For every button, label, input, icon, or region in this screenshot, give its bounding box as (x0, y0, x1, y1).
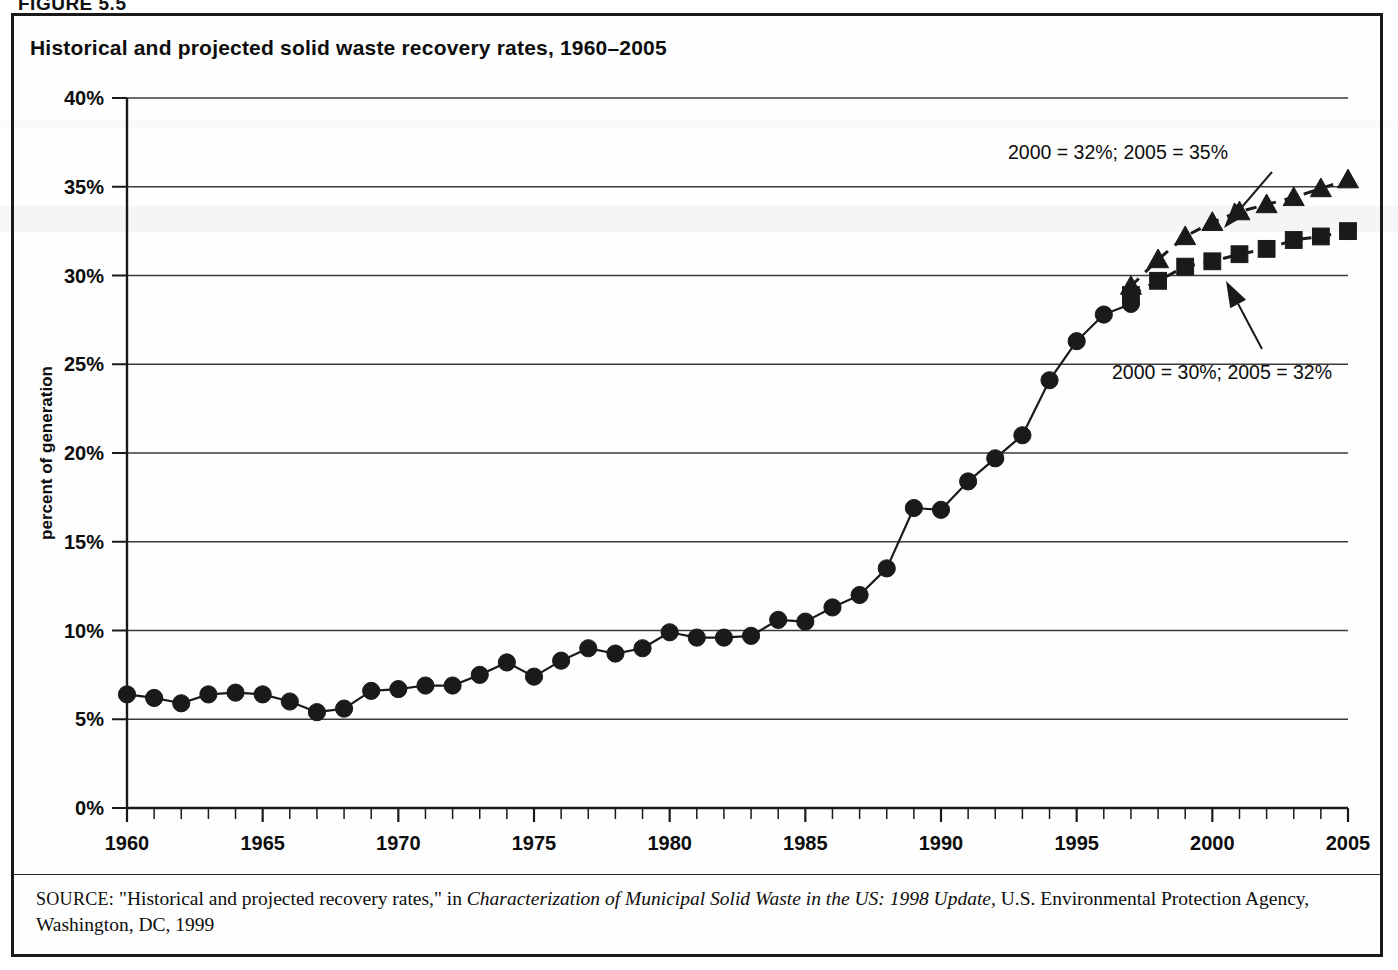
projection-low-label: 2000 = 30%; 2005 = 32% (1112, 361, 1332, 383)
source-note: SOURCE: "Historical and projected recove… (36, 886, 1346, 938)
data-point-circle-7 (308, 704, 325, 721)
data-point-circle-21 (688, 629, 705, 646)
data-point-circle-6 (281, 693, 298, 710)
data-series-group (118, 169, 1358, 721)
y-tick-label-30%: 30% (64, 265, 104, 287)
data-point-circle-1 (146, 689, 163, 706)
annotation-arrow-low-shaft (1238, 304, 1262, 349)
gridlines (127, 98, 1348, 719)
y-axis-title: percent of generation (37, 366, 56, 540)
source-italic-title: Characterization of Municipal Solid Wast… (467, 888, 996, 909)
data-point-circle-3 (200, 686, 217, 703)
x-tick-label-1960: 1960 (105, 832, 150, 854)
projection-high-label: 2000 = 32%; 2005 = 35% (1008, 141, 1228, 163)
data-point-square-3 (1204, 253, 1221, 270)
data-point-circle-36 (1095, 306, 1112, 323)
x-tick-label-1975: 1975 (512, 832, 557, 854)
data-point-circle-4 (227, 684, 244, 701)
figure-root: FIGURE 5.5 Historical and projected soli… (0, 0, 1398, 970)
data-point-square-0 (1123, 287, 1140, 304)
data-point-triangle-2 (1175, 226, 1196, 245)
y-tick-label-0%: 0% (75, 797, 104, 819)
x-tick-label-1995: 1995 (1054, 832, 1099, 854)
chart-canvas: 0%5%10%15%20%25%30%35%40%196019651970197… (0, 0, 1398, 970)
y-tick-label-40%: 40% (64, 87, 104, 109)
data-point-square-5 (1258, 240, 1275, 257)
data-point-circle-24 (770, 611, 787, 628)
y-tick-label-15%: 15% (64, 531, 104, 553)
data-point-circle-18 (607, 645, 624, 662)
data-point-circle-14 (498, 654, 515, 671)
data-point-circle-22 (715, 629, 732, 646)
data-point-square-4 (1231, 246, 1248, 263)
data-point-triangle-8 (1338, 169, 1359, 188)
data-point-circle-27 (851, 586, 868, 603)
data-point-circle-17 (580, 640, 597, 657)
data-point-circle-11 (417, 677, 434, 694)
series-line-circle (127, 304, 1131, 712)
data-point-circle-25 (797, 613, 814, 630)
data-point-circle-29 (905, 499, 922, 516)
data-point-square-2 (1177, 258, 1194, 275)
data-point-circle-9 (363, 682, 380, 699)
x-tick-label-1980: 1980 (647, 832, 692, 854)
x-tick-label-2005: 2005 (1326, 832, 1371, 854)
data-point-circle-5 (254, 686, 271, 703)
source-separator (14, 874, 1380, 875)
data-point-circle-32 (987, 450, 1004, 467)
data-point-circle-34 (1041, 372, 1058, 389)
data-point-circle-31 (960, 473, 977, 490)
data-point-circle-0 (118, 686, 135, 703)
source-text-before: "Historical and projected recovery rates… (114, 888, 467, 909)
data-point-square-6 (1285, 232, 1302, 249)
x-tick-label-1970: 1970 (376, 832, 421, 854)
y-tick-label-10%: 10% (64, 620, 104, 642)
data-point-circle-23 (742, 627, 759, 644)
data-point-circle-26 (824, 599, 841, 616)
data-point-circle-16 (553, 652, 570, 669)
annotation-arrow-low-head (1226, 281, 1246, 308)
data-point-triangle-6 (1283, 187, 1304, 206)
axes: 0%5%10%15%20%25%30%35%40%196019651970197… (37, 87, 1370, 854)
source-kicker: SOURCE: (36, 889, 114, 909)
data-point-circle-15 (525, 668, 542, 685)
data-point-square-1 (1150, 272, 1167, 289)
x-tick-label-1990: 1990 (919, 832, 964, 854)
data-point-circle-8 (335, 700, 352, 717)
x-tick-label-1985: 1985 (783, 832, 828, 854)
series-circle (118, 295, 1139, 720)
data-point-circle-12 (444, 677, 461, 694)
data-point-square-8 (1340, 223, 1357, 240)
data-point-square-7 (1312, 228, 1329, 245)
data-point-circle-10 (390, 680, 407, 697)
y-tick-label-35%: 35% (64, 176, 104, 198)
y-tick-label-5%: 5% (75, 708, 104, 730)
annotations-group: 2000 = 32%; 2005 = 35%2000 = 30%; 2005 =… (1008, 141, 1332, 383)
data-point-circle-19 (634, 640, 651, 657)
x-tick-label-1965: 1965 (240, 832, 285, 854)
y-tick-label-20%: 20% (64, 442, 104, 464)
data-point-circle-28 (878, 560, 895, 577)
data-point-circle-35 (1068, 333, 1085, 350)
data-point-circle-20 (661, 624, 678, 641)
data-point-circle-33 (1014, 427, 1031, 444)
data-point-triangle-3 (1202, 212, 1223, 231)
data-point-circle-2 (173, 695, 190, 712)
plot-area: 0%5%10%15%20%25%30%35%40%196019651970197… (0, 0, 1398, 970)
data-point-circle-30 (932, 501, 949, 518)
x-tick-label-2000: 2000 (1190, 832, 1235, 854)
y-tick-label-25%: 25% (64, 353, 104, 375)
data-point-circle-13 (471, 666, 488, 683)
